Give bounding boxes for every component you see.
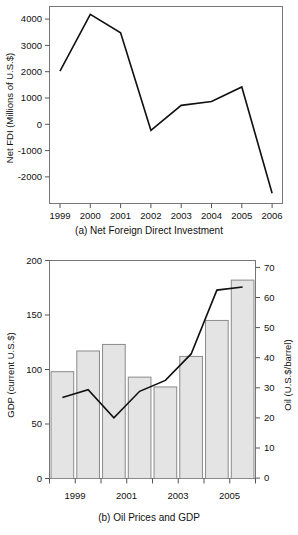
chart-b-ytick-left-label: 150 xyxy=(26,309,42,320)
chart-a-x-axis: 1999 2000 2001 2002 2003 2004 xyxy=(49,204,282,222)
chart-a-ytick-label: -1000 xyxy=(18,145,42,156)
chart-b-ytick-right-label: 30 xyxy=(264,382,275,393)
chart-b-ytick-right: 40 xyxy=(256,352,275,363)
chart-a-ytick-label: 2000 xyxy=(21,66,42,77)
chart-b-ytick-right: 10 xyxy=(256,442,275,453)
chart-a-xtick: 2003 xyxy=(171,204,192,222)
chart-b-ylabel-right: Oil (U.S.$/barrel) xyxy=(282,339,293,410)
chart-b-xtick-label: 2001 xyxy=(116,490,137,501)
chart-b-ytick-right: 60 xyxy=(256,292,275,303)
chart-a-ytick: 3000 xyxy=(21,40,50,51)
chart-b-bar xyxy=(206,320,229,478)
chart-a-xtick-label: 2000 xyxy=(80,210,101,221)
chart-b-ytick-right: 70 xyxy=(256,262,275,273)
chart-b-ytick-right: 20 xyxy=(256,412,275,423)
chart-a-ytick: 2000 xyxy=(21,66,50,77)
chart-a-ytick-label: -2000 xyxy=(18,171,42,182)
chart-a-caption: (a) Net Foreign Direct Investment xyxy=(75,225,223,236)
chart-b-x-axis xyxy=(50,479,256,484)
chart-b-ytick-left-label: 200 xyxy=(26,255,42,266)
chart-b-ylabel-left: GDP (current U.S.$) xyxy=(5,332,16,417)
chart-b-ytick-right: 30 xyxy=(256,382,275,393)
chart-b-bar xyxy=(51,372,74,479)
chart-b-ytick-left: 50 xyxy=(31,418,49,429)
figure-oil-prices-and-gdp: GDP (current U.S.$) Oil (U.S.$/barrel) 2… xyxy=(0,240,298,535)
figure-net-fdi: Net FDI (Millions of U.S.$) 4000 3000 20… xyxy=(0,0,298,240)
chart-b-y-axis-right: 70 60 50 40 30 20 xyxy=(256,262,275,484)
chart-b-xtick-labels: 1999 2001 2003 2005 xyxy=(64,490,240,501)
chart-b-ytick-right-label: 40 xyxy=(264,352,275,363)
chart-a-ytick: -1000 xyxy=(18,145,50,156)
chart-b-y-axis-left: 200 150 100 50 0 xyxy=(26,255,49,484)
chart-a-xtick: 1999 xyxy=(49,204,70,222)
chart-a-xtick-label: 2005 xyxy=(231,210,252,221)
chart-b-ytick-right: 0 xyxy=(256,472,270,483)
chart-a-ytick-label: 4000 xyxy=(21,13,42,24)
chart-a-xtick-label: 2003 xyxy=(171,210,192,221)
chart-b-ytick-right-label: 10 xyxy=(264,442,275,453)
chart-a-ytick: 1000 xyxy=(21,92,50,103)
chart-a-y-axis: 4000 3000 2000 1000 0 -1000 xyxy=(18,13,50,182)
chart-b-ytick-right-label: 60 xyxy=(264,292,275,303)
chart-b-ytick-right-label: 70 xyxy=(264,262,275,273)
chart-a-xtick: 2002 xyxy=(140,204,161,222)
chart-a-xtick: 2001 xyxy=(110,204,131,222)
chart-b-ytick-left: 100 xyxy=(26,364,49,375)
chart-a-xtick: 2006 xyxy=(262,204,283,222)
chart-b-ytick-left: 150 xyxy=(26,309,49,320)
chart-a-ytick: 4000 xyxy=(21,13,50,24)
chart-a-ytick: -2000 xyxy=(18,171,50,182)
chart-a-xtick-label: 2006 xyxy=(262,210,283,221)
chart-b-caption: (b) Oil Prices and GDP xyxy=(98,512,200,523)
chart-b-bar-group xyxy=(51,280,254,478)
chart-b-bar xyxy=(77,351,100,479)
chart-a-xtick-label: 2004 xyxy=(201,210,222,221)
chart-a-ytick-label: 3000 xyxy=(21,40,42,51)
chart-b-ytick-right-label: 50 xyxy=(264,322,275,333)
chart-b-ytick-left-label: 0 xyxy=(37,473,42,484)
chart-b-ytick-left: 200 xyxy=(26,255,49,266)
chart-a-xtick: 2005 xyxy=(231,204,252,222)
chart-a-ytick-label: 1000 xyxy=(21,92,42,103)
chart-a-xtick: 2000 xyxy=(80,204,101,222)
chart-b-bar xyxy=(180,356,203,478)
chart-a-xtick-label: 1999 xyxy=(49,210,70,221)
chart-b-ytick-left-label: 100 xyxy=(26,364,42,375)
chart-b-xtick-label: 1999 xyxy=(64,490,85,501)
chart-b-bar xyxy=(103,344,126,478)
chart-b-ytick-left: 0 xyxy=(37,473,50,484)
chart-b-ytick-right: 50 xyxy=(256,322,275,333)
chart-a-ylabel: Net FDI (Millions of U.S.$) xyxy=(4,53,15,163)
chart-b-xtick-label: 2003 xyxy=(167,490,188,501)
chart-b-ytick-right-label: 0 xyxy=(264,472,269,483)
chart-a-ytick-label: 0 xyxy=(37,119,42,130)
chart-b-bar xyxy=(154,387,177,479)
chart-a-ytick: 0 xyxy=(37,119,50,130)
chart-a-svg: Net FDI (Millions of U.S.$) 4000 3000 20… xyxy=(0,0,298,240)
chart-b-xtick-label: 2005 xyxy=(219,490,240,501)
chart-b-ytick-right-label: 20 xyxy=(264,412,275,423)
chart-b-ytick-left-label: 50 xyxy=(31,418,42,429)
chart-b-svg: GDP (current U.S.$) Oil (U.S.$/barrel) 2… xyxy=(0,240,298,535)
chart-b-bar xyxy=(231,280,254,478)
chart-a-xtick-label: 2002 xyxy=(140,210,161,221)
chart-a-data-line xyxy=(60,14,272,193)
chart-a-xtick: 2004 xyxy=(201,204,222,222)
chart-a-xtick-label: 2001 xyxy=(110,210,131,221)
